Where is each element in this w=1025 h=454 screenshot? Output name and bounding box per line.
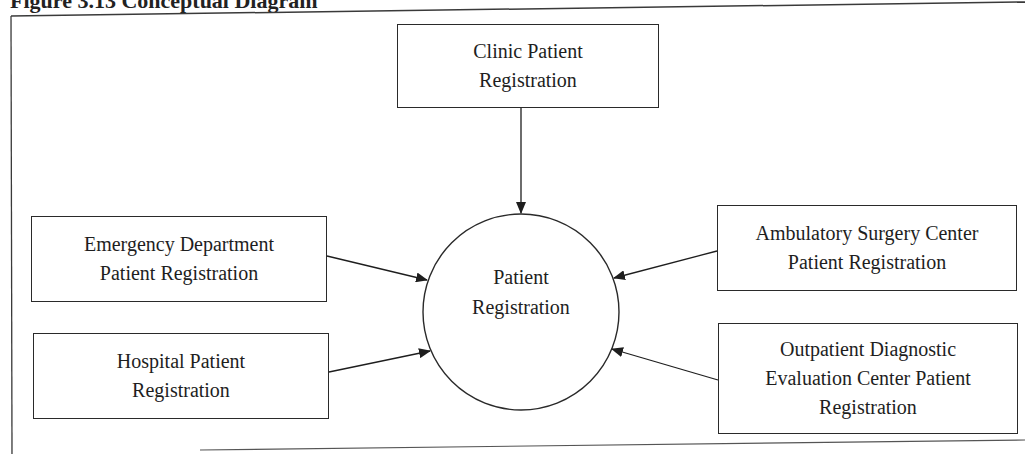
node-label-line: Clinic Patient (473, 37, 582, 66)
edge-ambulatory-to-center (614, 251, 717, 278)
node-label-line: Ambulatory Surgery Center (756, 219, 979, 248)
node-hospital-patient-registration: Hospital Patient Registration (33, 333, 329, 419)
node-label-line: Registration (765, 393, 971, 422)
node-clinic-patient-registration: Clinic Patient Registration (397, 24, 659, 108)
node-label-line: Registration (473, 66, 582, 95)
node-ambulatory-surgery-center-patient-registration: Ambulatory Surgery Center Patient Regist… (717, 205, 1017, 291)
node-label-line: Emergency Department (84, 230, 274, 259)
node-emergency-department-patient-registration: Emergency Department Patient Registratio… (31, 216, 327, 302)
center-node-label: Patient Registration (425, 262, 617, 322)
node-label-line: Outpatient Diagnostic (765, 335, 971, 364)
node-label-line: Evaluation Center Patient (765, 364, 971, 393)
edge-emergency-to-center (327, 256, 427, 280)
node-label-line: Patient Registration (84, 259, 274, 288)
node-label-line: Hospital Patient (117, 347, 245, 376)
center-label-line: Patient (425, 262, 617, 292)
node-label-line: Patient Registration (756, 248, 979, 277)
edge-outpatient-to-center (612, 349, 718, 380)
edge-hospital-to-center (329, 351, 430, 372)
center-label-line: Registration (425, 292, 617, 322)
node-outpatient-diagnostic-evaluation-center-patient-registration: Outpatient Diagnostic Evaluation Center … (718, 323, 1018, 434)
node-label-line: Registration (117, 376, 245, 405)
